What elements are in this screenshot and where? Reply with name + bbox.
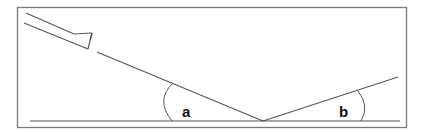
angle-arc-a [164, 83, 173, 121]
reflected-ray [263, 77, 398, 121]
angle-label-a: a [182, 103, 191, 120]
mirror [24, 13, 92, 49]
angle-label-b: b [339, 103, 348, 120]
reflection-diagram: a b [0, 0, 423, 132]
angle-arc-b [358, 91, 365, 121]
incident-ray [97, 52, 263, 121]
